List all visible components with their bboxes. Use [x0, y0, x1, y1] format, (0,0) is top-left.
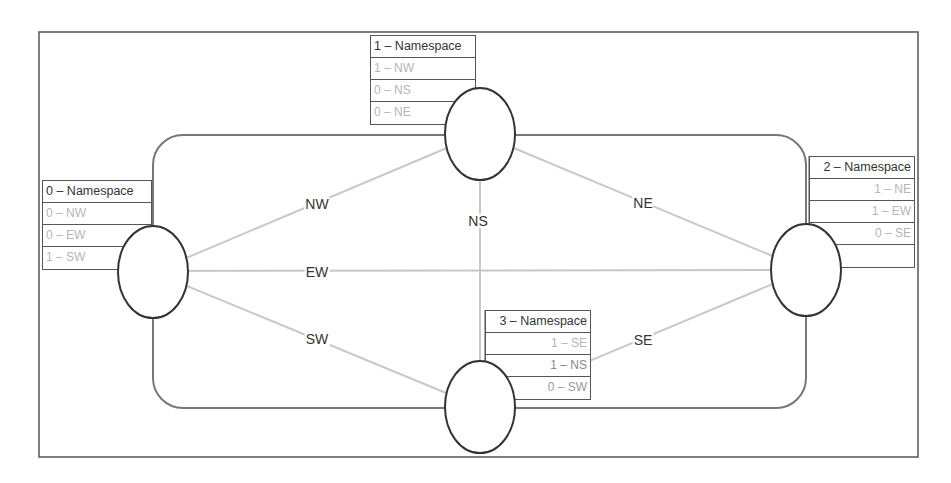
edge-label-sw: SW [305, 332, 330, 346]
node-1 [445, 88, 515, 180]
node-3 [445, 361, 515, 453]
nodes-layer [0, 0, 951, 483]
edge-label-ne: NE [632, 196, 653, 210]
edge-label-nw: NW [304, 197, 329, 211]
edge-label-ns: NS [467, 214, 488, 228]
namespace-diagram: 0 – Namespace 0 – NW 0 – EW 1 – SW 1 – N… [0, 0, 951, 483]
node-0 [118, 226, 188, 318]
edge-label-ew: EW [305, 265, 330, 279]
edge-label-se: SE [633, 333, 654, 347]
node-2 [771, 224, 841, 316]
